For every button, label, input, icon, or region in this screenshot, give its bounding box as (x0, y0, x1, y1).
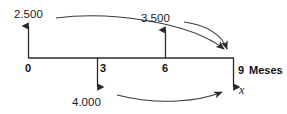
tick-label-0: 0 (25, 62, 31, 74)
amount-label-month-0: 2.500 (14, 8, 43, 20)
amount-label-month-3: 4.000 (72, 96, 101, 108)
unknown-amount-label: x (238, 83, 245, 97)
transfer-arrow-2500-to-month-9 (56, 16, 224, 49)
transfer-arrow-3500-to-month-9 (184, 22, 227, 49)
cash-flow-timeline-svg: 2.500 3.500 4.000 x 0 3 6 9 Meses (0, 0, 287, 114)
transfer-arrow-4000-to-x (117, 92, 222, 101)
tick-label-9: 9 (238, 64, 244, 76)
tick-label-3: 3 (100, 62, 106, 74)
tick-label-6: 6 (162, 62, 168, 74)
cash-flow-diagram: 2.500 3.500 4.000 x 0 3 6 9 Meses (0, 0, 287, 114)
amount-label-month-6: 3.500 (141, 12, 170, 24)
axis-unit-label: Meses (249, 64, 283, 76)
